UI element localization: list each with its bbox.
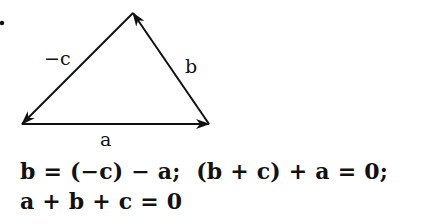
- equation-line-1: b = (−c) − a; (b + c) + a = 0;: [20, 158, 388, 184]
- vector-triangle-diagram: −c b a: [0, 0, 425, 150]
- label-a: a: [100, 128, 111, 150]
- label-b: b: [185, 55, 197, 77]
- equation-line-2: a + b + c = 0: [20, 188, 182, 214]
- vector-b-arrow: [133, 13, 209, 124]
- label-neg-c: −c: [44, 47, 71, 69]
- vector-neg-c-arrow: [22, 13, 133, 124]
- bullet-dot: [0, 21, 4, 25]
